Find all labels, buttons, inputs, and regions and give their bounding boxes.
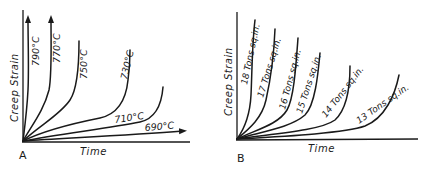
panel-b: 18 Tons sq.in. 17 Tons sq.in. 16 Tons sq… [223,12,418,165]
panel-b-x-label: Time [308,143,335,154]
panel-b-letter: B [237,152,245,165]
label-730c: 730°C [118,49,135,81]
curve-790c [23,19,28,141]
label-17-tons: 17 Tons sq.in. [255,37,283,99]
label-13-tons: 13 Tons sq.in. [354,82,410,126]
label-690c: 690°C [144,119,175,133]
label-770c: 770°C [51,33,62,63]
panel-a-x-label: Time [80,146,107,157]
label-14-tons: 14 Tons sq.in. [320,64,366,119]
panel-a-letter: A [19,149,27,162]
panel-b-x-axis [236,139,418,140]
panel-b-y-label: Creep Strain [223,47,234,116]
curve-690c [23,131,183,141]
label-750c: 750°C [78,49,89,79]
label-18-tons: 18 Tons sq.in. [239,23,262,86]
panel-a-y-label: Creep Strain [9,53,20,122]
creep-curves-figure: 790°C 770°C 750°C 730°C 710°C 690°C Cree… [0,0,428,170]
label-790c: 790°C [30,36,41,66]
panel-a: 790°C 770°C 750°C 730°C 710°C 690°C Cree… [9,10,190,162]
